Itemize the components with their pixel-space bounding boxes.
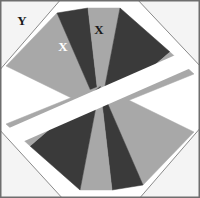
label-x-light-wedge: X (94, 22, 104, 37)
figure-container: Y X X (0, 0, 200, 198)
pinwheel-figure: Y X X (0, 0, 200, 198)
label-y-top-left: Y (17, 13, 27, 28)
label-x-dark-wedge: X (58, 39, 68, 54)
